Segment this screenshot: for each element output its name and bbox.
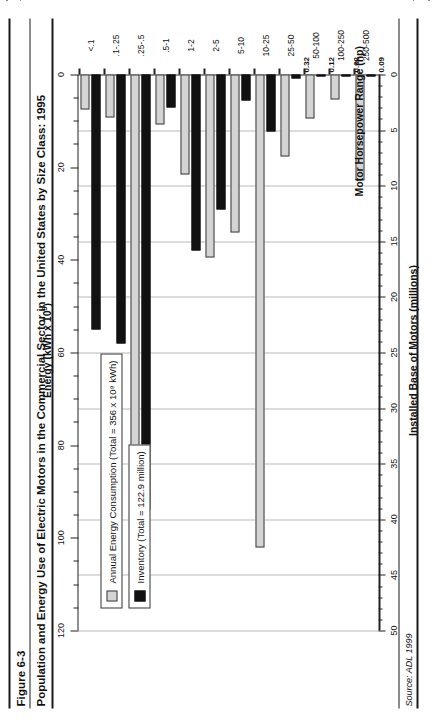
figure-number: Figure 6-3 bbox=[10, 18, 29, 708]
bottom-tick-minor bbox=[378, 552, 382, 553]
category-label: .25-.5 bbox=[135, 22, 145, 68]
bottom-tick-minor bbox=[378, 485, 382, 486]
bottom-tick-minor bbox=[378, 118, 382, 119]
bottom-tick-label: 5 bbox=[388, 113, 398, 147]
top-axis-title-post: ) bbox=[41, 303, 53, 307]
top-tick-minor bbox=[73, 491, 78, 492]
top-tick-major bbox=[70, 630, 78, 631]
category-tick bbox=[128, 68, 130, 74]
category-label: 50-100 bbox=[310, 22, 320, 68]
bottom-tick-label: 50 bbox=[388, 613, 398, 647]
bottom-tick-minor bbox=[378, 252, 382, 253]
category-tick bbox=[78, 68, 80, 74]
bar-energy bbox=[305, 74, 314, 118]
category-axis-title: Motor Horsepower Range (hp) bbox=[352, 0, 364, 196]
legend-label-inventory: Inventory (Total = 122.9 million) bbox=[134, 451, 145, 583]
category-label: 25-50 bbox=[285, 22, 295, 68]
top-axis-title: Energy (kWh x 109) bbox=[40, 200, 53, 500]
gridline bbox=[78, 463, 378, 464]
bottom-tick-minor bbox=[378, 196, 382, 197]
legend-swatch-inventory bbox=[134, 590, 145, 601]
category-label: .5-1 bbox=[160, 22, 170, 68]
bottom-tick-label: 15 bbox=[388, 224, 398, 258]
source-note: Source: ADL 1999 bbox=[399, 18, 413, 708]
bottom-tick-minor bbox=[378, 530, 382, 531]
bar-inventory bbox=[216, 74, 225, 209]
bar-inventory bbox=[316, 74, 325, 76]
bar-energy bbox=[130, 74, 139, 459]
top-tick-label: 120 bbox=[55, 613, 65, 647]
bar-inventory bbox=[291, 74, 300, 78]
bottom-tick-major bbox=[378, 574, 385, 575]
category-label: 10-25 bbox=[260, 22, 270, 68]
category-tick bbox=[103, 68, 105, 74]
bottom-tick-minor bbox=[378, 619, 382, 620]
bar-inventory bbox=[241, 74, 250, 100]
bar-inventory bbox=[266, 74, 275, 131]
bottom-tick-minor bbox=[378, 597, 382, 598]
top-tick-minor bbox=[73, 283, 78, 284]
top-tick-minor bbox=[73, 213, 78, 214]
category-tick bbox=[253, 68, 255, 74]
bottom-tick-major bbox=[378, 463, 385, 464]
top-tick-minor bbox=[73, 398, 78, 399]
bottom-tick-major bbox=[378, 296, 385, 297]
bottom-tick-minor bbox=[378, 107, 382, 108]
top-tick-minor bbox=[73, 306, 78, 307]
bar-value-label: 0.32 bbox=[301, 56, 310, 72]
top-tick-minor bbox=[73, 329, 78, 330]
bottom-tick-minor bbox=[378, 308, 382, 309]
category-label: 2-5 bbox=[210, 22, 220, 68]
bottom-tick-major bbox=[378, 241, 385, 242]
legend-item-energy: Annual Energy Consumption (Total = 356 x… bbox=[100, 353, 122, 608]
bottom-tick-minor bbox=[378, 274, 382, 275]
category-tick bbox=[153, 68, 155, 74]
bottom-tick-minor bbox=[378, 363, 382, 364]
gridline bbox=[78, 574, 378, 575]
figure-footer: Source: ADL 1999 bbox=[398, 18, 418, 708]
bottom-tick-minor bbox=[378, 141, 382, 142]
bottom-tick-minor bbox=[378, 152, 382, 153]
bottom-tick-label: 10 bbox=[388, 168, 398, 202]
top-tick-minor bbox=[73, 584, 78, 585]
bottom-tick-minor bbox=[378, 330, 382, 331]
top-tick-major bbox=[70, 167, 78, 168]
bottom-tick-major bbox=[378, 408, 385, 409]
bottom-tick-major bbox=[378, 74, 385, 75]
bottom-tick-label: 20 bbox=[388, 279, 398, 313]
bar-inventory bbox=[116, 74, 125, 343]
bottom-tick-label: 25 bbox=[388, 335, 398, 369]
bar-energy bbox=[105, 74, 114, 117]
bottom-tick-minor bbox=[378, 385, 382, 386]
bottom-tick-label: 45 bbox=[388, 557, 398, 591]
bottom-tick-minor bbox=[378, 586, 382, 587]
bottom-tick-minor bbox=[378, 563, 382, 564]
top-tick-minor bbox=[73, 144, 78, 145]
top-tick-minor bbox=[73, 236, 78, 237]
bar-inventory bbox=[341, 74, 350, 76]
bar-value-label: 0.12 bbox=[326, 56, 335, 72]
top-tick-label: 100 bbox=[55, 520, 65, 554]
bottom-tick-minor bbox=[378, 430, 382, 431]
bottom-tick-label: 40 bbox=[388, 502, 398, 536]
figure-rotated-canvas: Figure 6-3 Population and Energy Use of … bbox=[0, 0, 439, 726]
category-label: <.1 bbox=[85, 22, 95, 68]
legend-item-inventory: Inventory (Total = 122.9 million) bbox=[128, 444, 150, 608]
bottom-tick-minor bbox=[378, 541, 382, 542]
top-tick-label: 20 bbox=[55, 150, 65, 184]
figure-page: Figure 6-3 Population and Energy Use of … bbox=[0, 0, 439, 726]
legend-label-energy: Annual Energy Consumption (Total = 356 x… bbox=[106, 360, 117, 583]
bottom-tick-minor bbox=[378, 174, 382, 175]
bar-energy bbox=[230, 74, 239, 232]
bottom-tick-minor bbox=[378, 608, 382, 609]
bottom-tick-minor bbox=[378, 230, 382, 231]
bottom-tick-minor bbox=[378, 441, 382, 442]
category-tick bbox=[278, 68, 280, 74]
category-tick bbox=[328, 68, 330, 74]
bottom-tick-minor bbox=[378, 85, 382, 86]
bar-energy bbox=[330, 74, 339, 99]
bottom-tick-major bbox=[378, 130, 385, 131]
category-label: 100-250 bbox=[335, 22, 345, 68]
category-tick bbox=[203, 68, 205, 74]
top-tick-minor bbox=[73, 375, 78, 376]
